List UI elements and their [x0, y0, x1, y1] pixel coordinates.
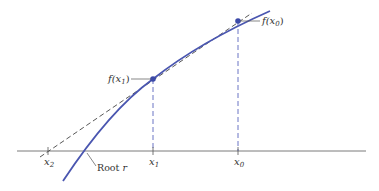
f-x1-label: f(x1) [107, 73, 130, 86]
point-f-x0 [235, 18, 241, 24]
x2-label: x2 [44, 156, 55, 169]
root-leader [87, 153, 96, 166]
x0-label: x0 [234, 156, 245, 169]
f-x0-label: f(x0) [261, 15, 284, 28]
x1-label: x1 [149, 156, 159, 169]
point-f-x1 [150, 76, 156, 82]
root-label: Root r [97, 162, 128, 173]
newton-method-diagram: f(x1) f(x0) x2 x1 x0 Root r [0, 0, 379, 191]
